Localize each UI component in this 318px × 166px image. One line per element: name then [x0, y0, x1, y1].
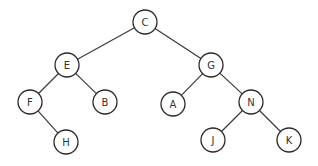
node-j: J	[201, 128, 225, 152]
edge-f-h	[38, 111, 58, 133]
node-label: N	[247, 97, 254, 108]
node-label: F	[27, 97, 33, 108]
node-n: N	[239, 90, 263, 114]
node-label: B	[102, 97, 109, 108]
node-k: K	[277, 128, 301, 152]
edge-n-k	[259, 110, 280, 131]
node-e: E	[55, 53, 79, 77]
binary-tree-diagram: CEGFBANHJK	[0, 0, 318, 166]
edge-c-g	[155, 29, 201, 59]
node-label: K	[286, 135, 293, 146]
node-label: A	[170, 99, 177, 110]
node-b: B	[93, 90, 117, 114]
edge-n-j	[221, 110, 242, 131]
node-h: H	[54, 130, 78, 154]
edge-e-f	[38, 73, 58, 93]
node-g: G	[199, 53, 223, 77]
node-label: J	[211, 135, 215, 146]
edge-g-n	[220, 73, 242, 94]
node-label: E	[64, 60, 70, 71]
node-label: H	[62, 137, 70, 148]
node-label: G	[207, 60, 215, 71]
node-c: C	[133, 10, 157, 34]
node-label: C	[142, 17, 149, 28]
node-f: F	[18, 90, 42, 114]
edge-g-a	[181, 74, 202, 96]
edge-e-b	[76, 73, 97, 93]
edge-c-e	[78, 28, 135, 59]
edges	[38, 28, 280, 133]
node-a: A	[161, 92, 185, 116]
